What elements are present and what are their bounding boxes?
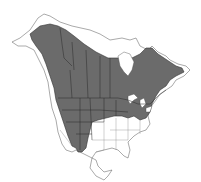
range-map [0,0,201,182]
north-america-map [0,0,201,182]
